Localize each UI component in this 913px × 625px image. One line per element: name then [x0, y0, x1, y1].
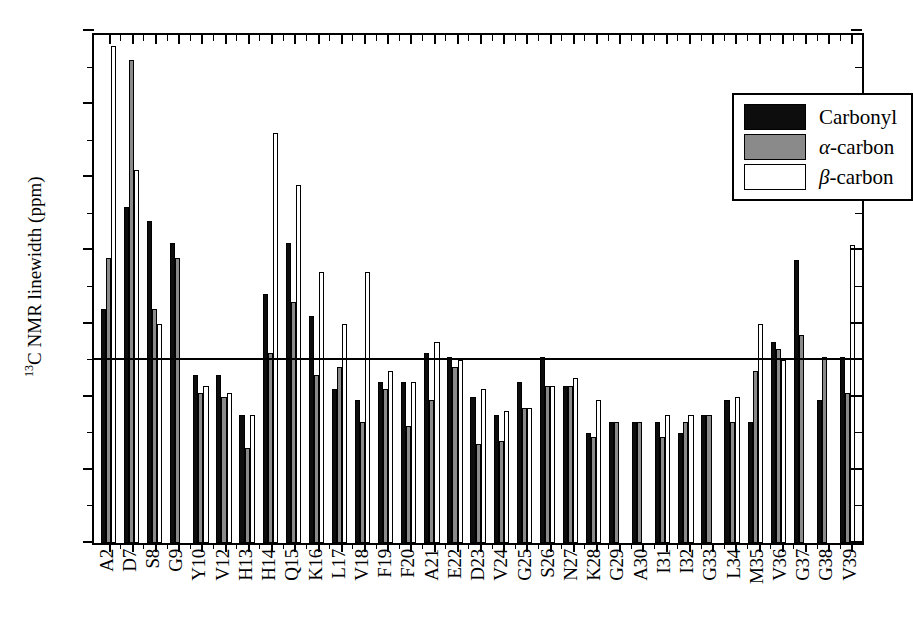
x-tick-label-text: N27 — [560, 549, 582, 581]
x-tick-label-text: L34 — [723, 549, 745, 579]
bar-v24-beta-carbon — [504, 411, 509, 543]
x-tick-top-i32 — [689, 35, 691, 44]
x-tick-top-v24 — [503, 35, 505, 44]
x-tick-label-text: D7 — [119, 549, 141, 572]
y-axis-title-superscript: 13 — [22, 365, 36, 377]
bar-group-e22 — [443, 35, 466, 543]
x-tick-top-s26 — [550, 35, 552, 44]
x-tick-label-text: D23 — [467, 549, 489, 581]
x-tick-top-k28 — [596, 35, 598, 44]
x-tick-label-text: K28 — [583, 549, 605, 581]
bar-group-d23 — [467, 35, 490, 543]
bar-g9-alpha-carbon — [175, 258, 180, 543]
x-tick-label-text: Y10 — [188, 549, 210, 581]
x-tick-label-i31: I31 — [652, 549, 675, 625]
x-tick-top-g38 — [828, 35, 830, 44]
legend-swatch-beta-carbon — [744, 164, 806, 190]
y-tick-right-4 — [851, 248, 862, 250]
x-tick-top-minor-11 — [376, 35, 377, 41]
x-tick-top-minor-10 — [352, 35, 353, 41]
x-tick-top-minor-2 — [167, 35, 168, 41]
bar-f19-beta-carbon — [388, 371, 393, 543]
bar-v36-beta-carbon — [781, 360, 786, 543]
legend-beta-glyph: β — [819, 165, 829, 189]
bar-i31-beta-carbon — [665, 415, 670, 543]
x-tick-top-minor-24 — [677, 35, 678, 41]
bar-group-v24 — [490, 35, 513, 543]
x-tick-label-l17: L17 — [327, 549, 350, 625]
x-tick-top-a30 — [642, 35, 644, 44]
x-tick-label-v24: V24 — [490, 549, 513, 625]
x-tick-label-g25: G25 — [513, 549, 536, 625]
x-axis-tick-labels: A2D7S8G9Y10V12H13H14Q15K16L17V18F19F20A2… — [92, 549, 864, 625]
y-tick-3.5 — [87, 286, 94, 287]
bar-q15-beta-carbon — [296, 185, 301, 543]
x-tick-top-minor-22 — [631, 35, 632, 41]
bar-m35-beta-carbon — [758, 324, 763, 543]
x-tick-label-v12: V12 — [211, 549, 234, 625]
bar-d7-beta-carbon — [134, 170, 139, 543]
bar-group-f20 — [397, 35, 420, 543]
bar-group-g25 — [513, 35, 536, 543]
x-tick-top-k16 — [318, 35, 320, 44]
x-tick-label-text: V12 — [212, 549, 234, 581]
legend-label-alpha-carbon: α-carbon — [819, 135, 894, 160]
x-tick-label-i32: I32 — [675, 549, 698, 625]
x-tick-label-text: A30 — [630, 549, 652, 581]
x-tick-label-l34: L34 — [722, 549, 745, 625]
x-tick-top-v39 — [851, 35, 853, 44]
x-tick-label-k28: K28 — [583, 549, 606, 625]
x-tick-label-text: F20 — [397, 549, 419, 578]
x-tick-label-k16: K16 — [304, 549, 327, 625]
x-tick-label-text: K16 — [305, 549, 327, 581]
bar-group-l17 — [328, 35, 351, 543]
bar-k16-beta-carbon — [319, 272, 324, 543]
x-tick-label-text: F19 — [374, 549, 396, 578]
x-tick-top-minor-23 — [654, 35, 655, 41]
legend-label-carbonyl: Carbonyl — [819, 105, 897, 130]
bar-group-n27 — [559, 35, 582, 543]
bar-group-s8 — [143, 35, 166, 543]
x-tick-top-minor-28 — [770, 35, 771, 41]
bar-g25-beta-carbon — [527, 408, 532, 543]
y-axis-title: 13C NMR linewidth (ppm) — [22, 57, 45, 497]
x-tick-top-minor-0 — [120, 35, 121, 41]
y-tick-3 — [83, 322, 94, 324]
bar-e22-beta-carbon — [458, 360, 463, 543]
x-tick-label-a21: A21 — [420, 549, 443, 625]
bar-d23-beta-carbon — [481, 389, 486, 543]
x-tick-label-g38: G38 — [815, 549, 838, 625]
x-tick-label-text: E22 — [444, 549, 466, 579]
bar-y10-beta-carbon — [203, 386, 208, 543]
legend-label-beta-carbon: β-carbon — [819, 165, 894, 190]
bar-g33-alpha-carbon — [706, 415, 711, 543]
bar-group-a2 — [97, 35, 120, 543]
y-axis-title-text: C NMR linewidth (ppm) — [24, 176, 45, 364]
x-tick-top-g9 — [178, 35, 180, 44]
bar-s8-beta-carbon — [157, 324, 162, 543]
x-tick-top-g37 — [805, 35, 807, 44]
bar-group-i32 — [674, 35, 697, 543]
x-tick-label-text: G25 — [514, 549, 536, 581]
x-tick-label-v39: V39 — [838, 549, 861, 625]
x-tick-label-text: G9 — [165, 549, 187, 572]
x-tick-label-text: Q15 — [281, 549, 303, 581]
x-tick-label-f19: F19 — [374, 549, 397, 625]
x-tick-label-text: M35 — [746, 549, 768, 584]
x-tick-top-minor-26 — [724, 35, 725, 41]
y-tick-6.5 — [87, 67, 94, 68]
y-tick-1 — [83, 468, 94, 470]
bar-g29-alpha-carbon — [614, 422, 619, 543]
x-tick-label-text: G37 — [792, 549, 814, 581]
x-tick-top-a21 — [434, 35, 436, 44]
bar-n27-beta-carbon — [573, 378, 578, 543]
x-tick-label-text: L17 — [328, 549, 350, 579]
bar-group-h14 — [259, 35, 282, 543]
x-tick-label-a30: A30 — [629, 549, 652, 625]
x-tick-top-e22 — [457, 35, 459, 44]
reference-line — [94, 358, 862, 360]
x-tick-top-minor-6 — [259, 35, 260, 41]
y-tick-0.5 — [87, 505, 94, 506]
x-tick-top-g25 — [526, 35, 528, 44]
y-tick-right-6.5 — [855, 67, 862, 68]
